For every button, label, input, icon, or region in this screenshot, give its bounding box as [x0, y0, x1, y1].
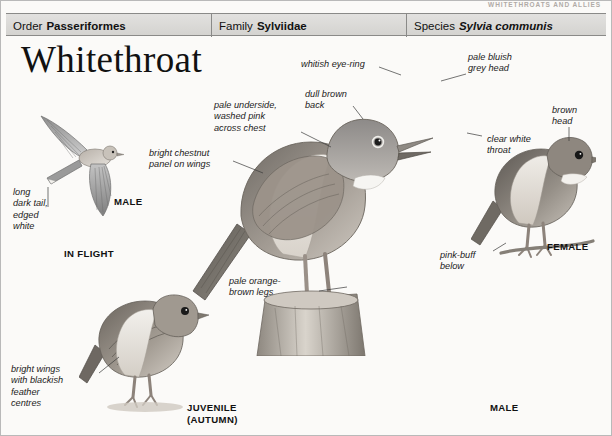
annotation-brown-head: brown head: [552, 105, 577, 128]
taxonomy-species-value: Sylvia communis: [459, 20, 553, 32]
field-guide-page: WHITETHROATS AND ALLIES Order Passerifor…: [0, 0, 612, 436]
taxonomy-family: Family Sylviidae: [211, 14, 406, 37]
caption-male: MALE: [490, 402, 519, 414]
annotation-clear-white-throat: clear white throat: [487, 134, 531, 157]
taxonomy-bar: Order Passeriformes Family Sylviidae Spe…: [6, 13, 606, 36]
annotation-bright-chestnut-panel: bright chestnut panel on wings: [149, 148, 210, 171]
caption-in-flight-male: MALE: [114, 196, 143, 208]
annotation-bright-wings: bright wings with blackish feather centr…: [11, 364, 63, 410]
annotation-whitish-eye-ring: whitish eye-ring: [301, 59, 365, 70]
annotation-long-dark-tail: long dark tail, edged white: [13, 187, 48, 233]
taxonomy-order-label: Order: [13, 20, 42, 32]
taxonomy-family-value: Sylviidae: [257, 20, 307, 32]
taxonomy-order-value: Passeriformes: [46, 20, 125, 32]
annotation-pale-orange-brown-legs: pale orange- brown legs: [229, 276, 281, 299]
caption-juvenile: JUVENILE (AUTUMN): [187, 402, 238, 425]
illustration-juvenile: [79, 293, 219, 413]
caption-female: FEMALE: [547, 241, 589, 253]
taxonomy-family-label: Family: [219, 20, 253, 32]
running-header: WHITETHROATS AND ALLIES: [488, 1, 601, 8]
caption-in-flight: IN FLIGHT: [64, 248, 114, 260]
annotation-pale-underside: pale underside, washed pink across chest: [214, 100, 277, 134]
taxonomy-species: Species Sylvia communis: [406, 14, 606, 37]
annotation-pink-buff-below: pink-buff below: [440, 250, 475, 273]
taxonomy-species-label: Species: [414, 20, 455, 32]
annotation-pale-bluish-grey-head: pale bluish grey head: [468, 52, 512, 75]
page-title: Whitethroat: [21, 41, 202, 78]
taxonomy-order: Order Passeriformes: [6, 14, 211, 37]
annotation-dull-brown-back: dull brown back: [305, 89, 347, 112]
